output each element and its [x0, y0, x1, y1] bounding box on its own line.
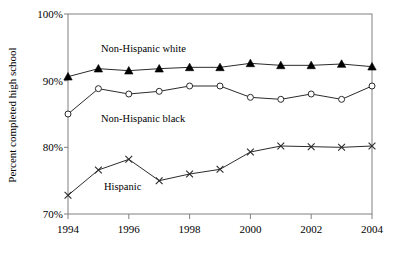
series-annotation-hispanic: Hispanic — [104, 181, 142, 192]
chart-figure: Percent completed high school 100% 90% 8… — [0, 0, 411, 258]
data-point-circle — [339, 96, 345, 102]
data-point-cross — [95, 167, 102, 174]
data-point-circle — [217, 83, 223, 89]
y-axis-title: Percent completed high school — [6, 47, 18, 182]
y-tick-label-80: 80% — [43, 141, 63, 153]
x-tick-label-2000: 2000 — [239, 223, 262, 235]
data-point-circle — [126, 91, 132, 97]
series-layer — [64, 59, 376, 199]
data-point-circle — [278, 96, 284, 102]
x-tick-label-1998: 1998 — [179, 223, 202, 235]
line-chart: Percent completed high school 100% 90% 8… — [0, 0, 411, 258]
data-point-circle — [247, 94, 253, 100]
data-point-circle — [95, 86, 101, 92]
x-tick-label-1996: 1996 — [118, 223, 141, 235]
series-line — [68, 86, 372, 114]
series-annotation-black: Non-Hispanic black — [101, 113, 186, 124]
x-tick-label-1994: 1994 — [57, 223, 80, 235]
data-point-circle — [65, 111, 71, 117]
series-annotation-white: Non-Hispanic white — [101, 43, 186, 54]
data-point-circle — [308, 91, 314, 97]
data-point-circle — [156, 88, 162, 94]
y-tick-label-100: 100% — [37, 8, 63, 20]
data-point-triangle — [94, 64, 102, 72]
series-circle — [65, 83, 375, 117]
data-point-circle — [369, 83, 375, 89]
series-triangle — [64, 59, 376, 80]
x-tick-label-2004: 2004 — [361, 223, 384, 235]
y-tick-label-90: 90% — [43, 75, 63, 87]
data-point-triangle — [337, 60, 345, 68]
data-point-triangle — [246, 59, 254, 67]
data-point-cross — [156, 177, 163, 184]
y-tick-label-70: 70% — [43, 208, 63, 220]
data-point-cross — [125, 156, 132, 163]
data-point-circle — [187, 83, 193, 89]
x-tick-label-2002: 2002 — [300, 223, 322, 235]
